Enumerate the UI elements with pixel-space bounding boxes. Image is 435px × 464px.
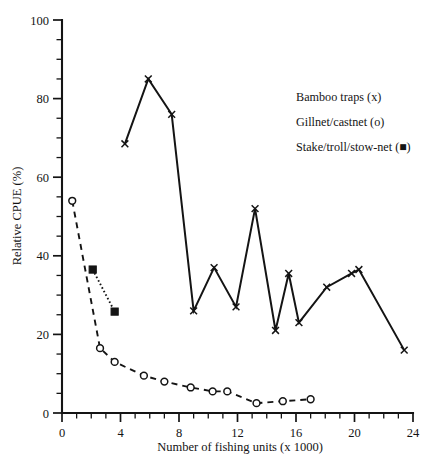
y-tick-label: 20	[37, 328, 50, 342]
x-tick-label: 24	[407, 426, 420, 440]
marker-circle	[161, 378, 168, 385]
marker-square	[111, 308, 118, 315]
x-tick-label: 12	[231, 426, 244, 440]
marker-cross	[348, 270, 355, 277]
x-tick-label: 16	[290, 426, 303, 440]
marker-circle	[209, 388, 216, 395]
y-tick-label: 0	[43, 407, 49, 421]
series-2	[69, 197, 314, 406]
marker-square	[89, 266, 96, 273]
series-path	[93, 270, 115, 312]
marker-circle	[187, 384, 194, 391]
legend-entry: Stake/troll/stow-net (■)	[296, 140, 411, 154]
marker-cross	[211, 264, 218, 271]
y-axis-title: Relative CPUE (%)	[10, 167, 24, 266]
marker-circle	[307, 396, 314, 403]
x-tick-label: 4	[117, 426, 124, 440]
marker-circle	[97, 345, 104, 352]
marker-cross	[401, 347, 408, 354]
marker-circle	[224, 388, 231, 395]
marker-circle	[279, 398, 286, 405]
series-path	[72, 201, 310, 403]
legend-entry: Gillnet/castnet (o)	[296, 115, 384, 129]
y-tick-label: 100	[30, 14, 49, 28]
chart-legend: Bamboo traps (x)Gillnet/castnet (o)Stake…	[296, 90, 411, 154]
x-axis: 04812162024	[59, 413, 420, 440]
y-tick-label: 60	[37, 171, 50, 185]
x-tick-label: 0	[59, 426, 65, 440]
y-tick-label: 80	[37, 92, 50, 106]
marker-circle	[141, 372, 148, 379]
marker-circle	[111, 359, 118, 366]
marker-cross	[355, 266, 362, 273]
marker-circle	[69, 197, 76, 204]
cpue-line-chart: 020406080100 04812162024 Bamboo traps (x…	[0, 0, 435, 464]
marker-circle	[253, 400, 260, 407]
y-tick-label: 40	[37, 249, 50, 263]
chart-container: 020406080100 04812162024 Bamboo traps (x…	[0, 0, 435, 464]
legend-entry: Bamboo traps (x)	[296, 90, 381, 104]
series-3	[89, 266, 118, 315]
x-tick-label: 8	[176, 426, 182, 440]
x-tick-label: 20	[348, 426, 361, 440]
y-axis: 020406080100	[30, 14, 62, 421]
marker-cross	[323, 284, 330, 291]
x-axis-title: Number of fishing units (x 1000)	[157, 440, 323, 454]
